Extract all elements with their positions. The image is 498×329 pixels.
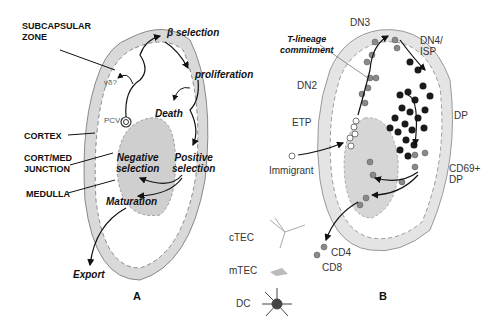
ctec-cell-icon [270,218,305,248]
label-cort-med-junction: CORT/MED JUNCTION [24,153,72,175]
label-proliferation: proliferation [195,69,253,80]
label-pcv: PCV [104,116,120,125]
legend-dc: DC [236,298,250,309]
label-cd69-dp: CD69+ DP [449,163,480,185]
label-medulla: MEDULLA [26,189,70,200]
label-dp: DP [454,110,468,121]
label-cortex: CORTEX [24,131,62,142]
label-maturation: Maturation [106,196,157,207]
legend-mtec: mTEC [229,265,257,276]
label-cd8: CD8 [322,262,342,273]
label-etp: ETP [292,117,311,128]
label-dn2: DN2 [297,80,317,91]
label-cd4: CD4 [331,247,351,258]
panel-b-lobe [289,30,453,258]
label-negative-selection: Negative selection [116,152,159,174]
dendritic-cell-icon [262,288,292,316]
label-t-lineage-commitment: T-lineage commitment [280,34,334,56]
label-dn4-isp: DN4/ ISP [420,35,443,57]
panel-b-letter: B [379,290,387,302]
label-immigrant: Immigrant [269,165,313,176]
panel-a-letter: A [133,290,141,302]
label-beta-selection: β selection [167,27,219,38]
label-dn3: DN3 [350,17,370,28]
label-subcapsular-zone: SUBCAPSULAR ZONE [22,21,91,43]
label-gamma-delta: γδ? [104,78,117,87]
label-export: Export [73,269,105,280]
mtec-cell-icon [270,268,288,276]
label-death: Death [155,108,183,119]
label-positive-selection: Positive selection [172,152,215,174]
legend-ctec: cTEC [229,232,254,243]
